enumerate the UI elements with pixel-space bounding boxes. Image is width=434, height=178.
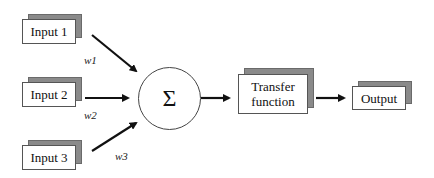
- weight-w2-label: w2: [84, 109, 97, 121]
- transfer-function-box: Transfer function: [238, 74, 308, 114]
- input-1-label: Input 1: [30, 24, 67, 39]
- arrow-input3-to-sum: [92, 123, 136, 151]
- input-2-box: Input 2: [22, 82, 76, 107]
- summation-node: Σ: [138, 67, 201, 130]
- input-3-box: Input 3: [22, 145, 76, 170]
- input-2-label: Input 2: [30, 87, 67, 102]
- weight-w3-label: w3: [115, 150, 128, 162]
- input-3-label: Input 3: [30, 150, 67, 165]
- output-label: Output: [361, 91, 397, 106]
- neuron-diagram: Input 1 Input 2 Input 3 w1 w2 w3 Σ Trans…: [0, 0, 434, 178]
- output-box: Output: [352, 86, 406, 110]
- weight-w1-label: w1: [84, 54, 97, 66]
- input-1-box: Input 1: [22, 19, 76, 44]
- transfer-label-line2: function: [251, 94, 294, 109]
- arrow-input1-to-sum: [92, 35, 136, 71]
- transfer-label-line1: Transfer: [251, 79, 295, 94]
- sigma-icon: Σ: [163, 85, 177, 112]
